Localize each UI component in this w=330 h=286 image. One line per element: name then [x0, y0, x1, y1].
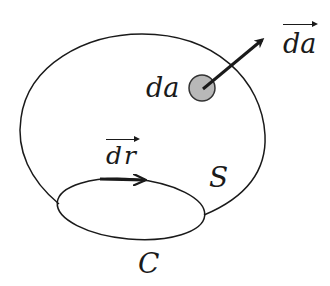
- line-element-label: dr: [106, 143, 138, 168]
- line-element-arrow: [100, 179, 145, 180]
- area-element-disc: [189, 75, 215, 101]
- area-element-label: da: [146, 74, 179, 101]
- normal-vector-label: da: [283, 30, 316, 57]
- boundary-curve-label: C: [138, 250, 159, 278]
- vector-notation: dr: [106, 143, 138, 168]
- surface-diagram: [0, 0, 330, 286]
- surface-label: S: [209, 164, 228, 192]
- normal-vector-arrow: [203, 40, 262, 89]
- boundary-curve: [55, 173, 208, 246]
- vector-arrow-icon: [106, 139, 138, 140]
- vector-notation: da: [283, 30, 316, 57]
- vector-arrow-icon: [283, 24, 316, 25]
- surface-outline: [20, 34, 265, 215]
